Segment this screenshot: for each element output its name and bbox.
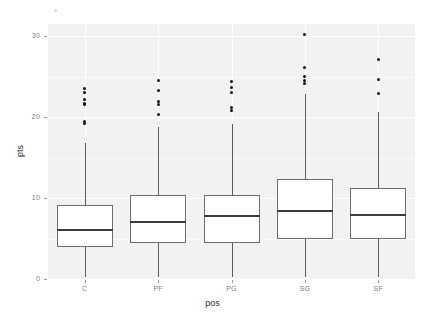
outlier-point bbox=[377, 58, 380, 61]
x-tick-label-pf: PF bbox=[133, 285, 183, 292]
median-line bbox=[350, 214, 406, 216]
y-tick-label: 0 bbox=[20, 275, 40, 282]
y-tick-mark bbox=[44, 117, 47, 118]
y-axis-title: pts bbox=[15, 131, 25, 171]
x-tick-label-sf: SF bbox=[353, 285, 403, 292]
stray-speck bbox=[54, 9, 57, 12]
whisker-lower bbox=[378, 239, 379, 276]
x-tick-mark bbox=[378, 280, 379, 283]
x-axis-title: pos bbox=[0, 298, 425, 308]
y-tick-label: 10 bbox=[20, 194, 40, 201]
whisker-upper bbox=[378, 112, 379, 187]
x-tick-mark bbox=[305, 280, 306, 283]
y-tick-mark bbox=[44, 198, 47, 199]
x-tick-label-c: C bbox=[60, 285, 110, 292]
y-tick-mark bbox=[44, 36, 47, 37]
plot-panel bbox=[48, 24, 415, 279]
x-tick-mark bbox=[85, 280, 86, 283]
outlier-point bbox=[377, 78, 380, 81]
x-tick-mark bbox=[158, 280, 159, 283]
x-tick-label-pg: PG bbox=[207, 285, 257, 292]
boxplot-SF bbox=[48, 24, 415, 279]
chart-root: pts 0102030CPFPGSGSF pos bbox=[0, 0, 425, 321]
y-tick-mark bbox=[44, 279, 47, 280]
x-tick-mark bbox=[232, 280, 233, 283]
outlier-point bbox=[377, 92, 380, 95]
y-tick-label: 20 bbox=[20, 113, 40, 120]
x-tick-label-sg: SG bbox=[280, 285, 330, 292]
y-tick-label: 30 bbox=[20, 32, 40, 39]
